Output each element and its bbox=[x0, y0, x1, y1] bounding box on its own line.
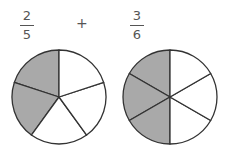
pie-fifths bbox=[12, 50, 106, 144]
pie-charts bbox=[0, 0, 225, 155]
pie-sixths bbox=[123, 50, 217, 144]
